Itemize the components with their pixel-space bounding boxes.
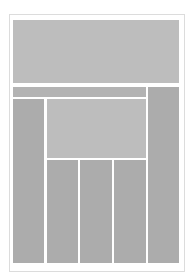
content-column-1-block [47, 160, 78, 263]
content-column-2-block [80, 160, 112, 263]
left-sidebar-block [13, 99, 44, 263]
feature-area-block [47, 99, 146, 158]
right-sidebar-block [148, 87, 179, 263]
content-column-3-block [114, 160, 146, 263]
nav-bar-block [13, 87, 146, 97]
header-block [13, 20, 179, 83]
